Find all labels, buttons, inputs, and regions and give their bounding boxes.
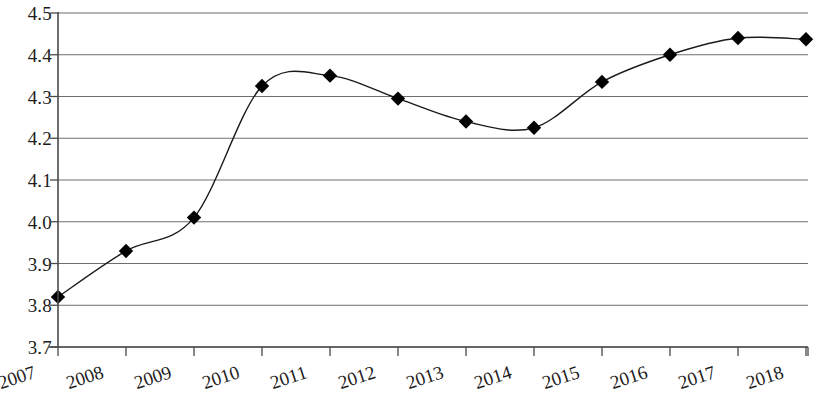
x-axis-tick-label: 2018 (744, 362, 786, 393)
x-axis-tick-label: 2016 (608, 362, 650, 393)
x-axis-tick-label: 2013 (404, 362, 446, 393)
x-axis-tick-labels: 2007200820092010201120122013201420152016… (0, 347, 818, 402)
x-axis-tick-label: 2010 (200, 362, 242, 393)
x-axis-tick-label: 2014 (472, 362, 514, 393)
x-axis-tick-label: 2012 (336, 362, 378, 393)
x-axis-tick-label: 2007 (0, 362, 38, 393)
x-axis-tick-label: 2017 (676, 362, 718, 393)
x-axis-tick-label: 2011 (268, 362, 310, 393)
x-axis-tick-label: 2008 (64, 362, 106, 393)
line-chart: 4.54.44.34.24.14.03.93.83.7 200720082009… (0, 0, 818, 402)
chart-axes (0, 0, 818, 402)
x-axis-tick-label: 2015 (540, 362, 582, 393)
x-axis-tick-label: 2009 (132, 362, 174, 393)
